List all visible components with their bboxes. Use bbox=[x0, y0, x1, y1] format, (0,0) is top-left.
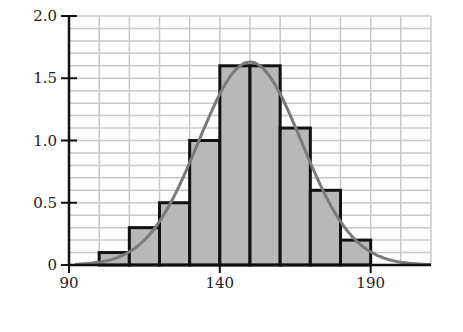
x-axis-ticks: 90140190 bbox=[59, 265, 385, 292]
histogram-bar bbox=[190, 141, 220, 266]
y-tick-label: 2.0 bbox=[33, 7, 57, 25]
histogram-bar bbox=[310, 190, 340, 265]
y-tick-label: 1.5 bbox=[33, 69, 57, 87]
y-axis-ticks: 00.51.01.52.0 bbox=[33, 7, 77, 274]
y-tick-label: 1.0 bbox=[33, 132, 57, 150]
histogram-bar bbox=[220, 66, 250, 265]
histogram-chart: 00.51.01.52.0 90140190 bbox=[0, 0, 463, 332]
x-tick-label: 140 bbox=[206, 274, 235, 292]
histogram-bar bbox=[250, 66, 280, 265]
histogram-bar bbox=[341, 240, 371, 265]
histogram-bar bbox=[129, 228, 159, 265]
y-tick-label: 0 bbox=[47, 256, 57, 274]
y-tick-label: 0.5 bbox=[33, 194, 57, 212]
x-tick-label: 90 bbox=[59, 274, 78, 292]
x-tick-label: 190 bbox=[356, 274, 385, 292]
